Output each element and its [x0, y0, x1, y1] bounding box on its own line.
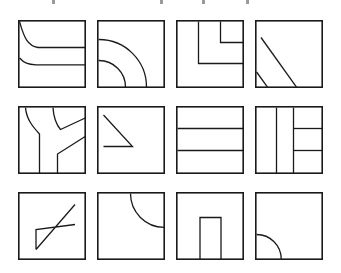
- figure-sheet: [0, 0, 341, 273]
- tile-frame: [98, 107, 164, 173]
- tile-curve-vertical-and-branching-y: [18, 106, 86, 174]
- tile-two-parallel-diagonals: [255, 20, 323, 88]
- tile-frame: [256, 107, 322, 173]
- tile-inverted-u-doorway: [176, 192, 244, 260]
- tile-quarter-arc-bottom-left: [255, 192, 323, 260]
- tile-frame: [256, 193, 322, 259]
- tile-quarter-arc-top-right: [97, 192, 165, 260]
- tile-diagonal-parallelogram-band: [18, 192, 86, 260]
- tile-frame: [177, 107, 243, 173]
- crop-marks-row: [0, 0, 341, 7]
- tile-grid: [18, 20, 324, 260]
- crop-mark: [246, 0, 249, 4]
- crop-mark: [202, 0, 205, 4]
- crop-mark: [160, 0, 163, 4]
- tile-three-horizontal-bands: [176, 106, 244, 174]
- crop-mark: [52, 0, 55, 4]
- tile-two-concentric-quarter-arcs: [97, 20, 165, 88]
- tile-nested-right-angle-steps: [176, 20, 244, 88]
- tile-frame: [19, 193, 85, 259]
- tile-vertical-line-and-bracket-stubs: [255, 106, 323, 174]
- tile-frame: [19, 107, 85, 173]
- tile-frame: [177, 193, 243, 259]
- tile-frame: [19, 21, 85, 87]
- tile-frame: [98, 21, 164, 87]
- tile-curve-and-two-horizontal-bands: [18, 20, 86, 88]
- tile-right-triangle-open-left: [97, 106, 165, 174]
- tile-frame: [177, 21, 243, 87]
